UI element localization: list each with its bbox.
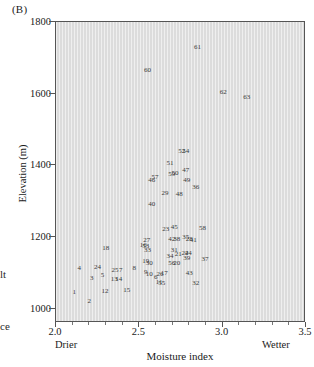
data-point-label: 58 xyxy=(199,225,206,232)
x-axis-drier-label: Drier xyxy=(55,339,77,350)
x-minor-tick-mark xyxy=(288,322,289,325)
y-tick-mark xyxy=(49,21,55,22)
scatter-plot-figure: (B) lt ce 10001200140016001800 Elevation… xyxy=(0,0,314,367)
clipped-edge-text-upper: lt xyxy=(0,268,6,280)
x-minor-tick-mark xyxy=(188,322,189,325)
x-tick-mark xyxy=(55,322,56,327)
x-tick-mark xyxy=(138,322,139,327)
data-point-label: 10 xyxy=(146,271,153,278)
data-point-label: 43 xyxy=(186,269,193,276)
data-point-label: 60 xyxy=(144,67,151,74)
y-tick-mark xyxy=(49,236,55,237)
data-point-label: 44 xyxy=(185,250,192,257)
x-tick-mark xyxy=(222,322,223,327)
x-axis-title: Moisture index xyxy=(55,350,305,362)
x-tick-mark xyxy=(305,322,306,327)
x-minor-tick-mark xyxy=(272,322,273,325)
clipped-edge-text-lower: ce xyxy=(0,320,10,332)
y-tick-label: 1400 xyxy=(30,159,51,170)
data-point-label: 4 xyxy=(77,265,81,272)
data-point-label: 45 xyxy=(171,224,178,231)
data-point-label: 51 xyxy=(167,160,174,167)
data-point-label: 48 xyxy=(176,190,183,197)
y-tick-mark xyxy=(49,308,55,309)
data-point-label: 2 xyxy=(87,298,91,305)
data-point-label: 56 xyxy=(168,259,175,266)
data-point-label: 42 xyxy=(168,235,175,242)
y-tick-label: 1800 xyxy=(30,16,51,27)
y-tick-label: 1000 xyxy=(30,302,51,313)
x-axis-wetter-label: Wetter xyxy=(262,339,290,350)
data-point-label: 12 xyxy=(102,287,109,294)
panel-label: (B) xyxy=(12,3,27,15)
x-tick-label: 2.0 xyxy=(48,326,61,337)
data-point-label: 57 xyxy=(152,173,159,180)
x-minor-tick-mark xyxy=(122,322,123,325)
x-minor-tick-mark xyxy=(72,322,73,325)
data-point-label: 41 xyxy=(190,236,197,243)
data-point-label: 7 xyxy=(119,267,123,274)
data-point-label: 62 xyxy=(220,88,227,95)
y-tick-mark xyxy=(49,93,55,94)
data-point-label: 40 xyxy=(148,201,155,208)
x-minor-tick-mark xyxy=(205,322,206,325)
x-minor-tick-mark xyxy=(88,322,89,325)
data-point-label: 15 xyxy=(123,287,130,294)
data-point-label: 63 xyxy=(243,93,250,100)
x-minor-tick-mark xyxy=(105,322,106,325)
data-point-label: 35 xyxy=(182,233,189,240)
data-point-label: 47 xyxy=(182,166,189,173)
x-minor-tick-mark xyxy=(255,322,256,325)
y-tick-label: 1200 xyxy=(30,231,51,242)
data-point-label: 49 xyxy=(183,176,190,183)
data-point-label: 25 xyxy=(112,267,119,274)
y-tick-mark xyxy=(49,164,55,165)
data-point-label: 1 xyxy=(72,289,76,296)
data-point-label: 14 xyxy=(115,275,122,282)
x-tick-label: 3.0 xyxy=(215,326,228,337)
x-minor-tick-mark xyxy=(238,322,239,325)
data-point-label: 53 xyxy=(142,242,149,249)
data-point-label: 3 xyxy=(90,274,94,281)
data-point-label: 55 xyxy=(158,279,165,286)
data-point-label: 32 xyxy=(192,279,199,286)
data-point-label: 24 xyxy=(94,264,101,271)
x-tick-label: 2.5 xyxy=(132,326,145,337)
data-point-label: 37 xyxy=(202,255,209,262)
x-minor-tick-mark xyxy=(155,322,156,325)
data-point-label: 29 xyxy=(162,190,169,197)
data-point-label: 8 xyxy=(132,264,136,271)
x-minor-tick-mark xyxy=(172,322,173,325)
data-point-label: 5 xyxy=(101,272,105,279)
data-point-label: 18 xyxy=(102,244,109,251)
y-tick-label: 1600 xyxy=(30,87,51,98)
data-point-label: 26 xyxy=(157,270,164,277)
data-point-label: 59 xyxy=(168,171,175,178)
data-point-label: 61 xyxy=(194,44,201,51)
data-point-label: 36 xyxy=(192,183,199,190)
y-axis-title: Elevation (m) xyxy=(17,119,28,229)
data-point-label: 54 xyxy=(182,148,189,155)
x-tick-label: 3.5 xyxy=(298,326,311,337)
data-point-label: 23 xyxy=(162,226,169,233)
data-point-label: 30 xyxy=(146,260,153,267)
